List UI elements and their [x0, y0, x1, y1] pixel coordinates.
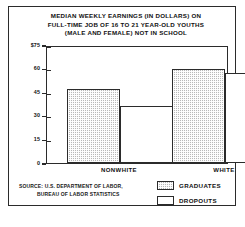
legend-item-graduates: GRADUATES — [157, 179, 233, 192]
chart-legend: GRADUATES DROPOUTS — [157, 179, 233, 209]
figure-card: MEDIAN WEEKLY EARNINGS (IN DOLLARS) ON F… — [8, 6, 236, 206]
legend-label-dropouts: DROPOUTS — [179, 197, 217, 204]
y-axis: 015304560$75 — [9, 46, 46, 164]
source-note: SOURCE: U.S. DEPARTMENT OF LABOR, BUREAU… — [19, 183, 149, 198]
bar-nonwhite-graduates — [67, 89, 120, 163]
legend-item-dropouts: DROPOUTS — [157, 194, 233, 207]
y-axis-tick-label: 15 — [34, 136, 40, 142]
bar-nonwhite-dropouts — [120, 106, 173, 163]
y-axis-tick-label: 0 — [37, 160, 40, 166]
y-axis-tick-label: 30 — [34, 112, 40, 118]
y-axis-tick-label: 45 — [34, 89, 40, 95]
plot-area — [46, 46, 228, 164]
y-axis-tick-label: 60 — [34, 65, 40, 71]
y-axis-inner-tick — [47, 70, 51, 71]
x-axis-label-white: WHITE — [171, 167, 245, 173]
y-axis-tick-label: $75 — [31, 42, 40, 48]
bar-white-graduates — [172, 69, 225, 163]
y-axis-inner-tick — [47, 46, 51, 47]
y-axis-inner-tick — [47, 117, 51, 118]
x-axis-label-nonwhite: NONWHITE — [66, 167, 172, 173]
legend-label-graduates: GRADUATES — [179, 182, 221, 189]
chart-title-line-2: FULL-TIME JOB OF 16 TO 21 YEAR-OLD YOUTH… — [27, 21, 225, 30]
legend-swatch-graduates-icon — [157, 181, 174, 190]
y-axis-inner-tick — [47, 94, 51, 95]
chart-title: MEDIAN WEEKLY EARNINGS (IN DOLLARS) ON F… — [27, 12, 225, 38]
legend-swatch-dropouts-icon — [157, 196, 174, 205]
y-axis-inner-tick — [47, 141, 51, 142]
source-line-2: BUREAU OF LABOR STATISTICS — [19, 191, 149, 199]
bar-white-dropouts — [225, 73, 245, 163]
chart-title-line-1: MEDIAN WEEKLY EARNINGS (IN DOLLARS) ON — [27, 12, 225, 21]
source-line-1: SOURCE: U.S. DEPARTMENT OF LABOR, — [19, 183, 149, 191]
chart-title-line-3: (MALE AND FEMALE) NOT IN SCHOOL — [27, 29, 225, 38]
